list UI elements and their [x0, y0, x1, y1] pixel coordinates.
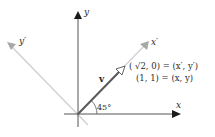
y-prime-axis-label: y′	[19, 37, 26, 46]
y-axis	[74, 11, 82, 127]
y-prime-axis	[7, 42, 88, 125]
primed-coordinates-annotation: ( √2, 0) = (x′, y′)	[129, 62, 198, 71]
standard-coordinates-annotation: (1, 1) = (x, y)	[136, 74, 193, 83]
vector-label: v	[99, 75, 104, 84]
x-prime-axis-label: x′	[151, 38, 158, 47]
y-axis-label: y	[84, 8, 89, 17]
angle-label: 45°	[97, 104, 111, 112]
y-arrowhead-icon	[74, 11, 82, 19]
x-axis-label: x	[176, 101, 181, 110]
x-arrowhead-icon	[172, 110, 181, 118]
